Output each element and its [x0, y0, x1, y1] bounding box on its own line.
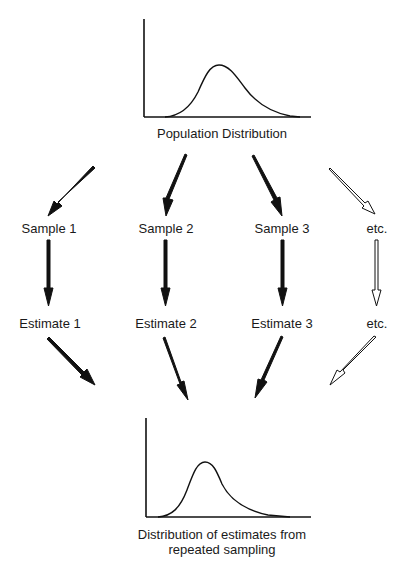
arrow-to-sample-2: [163, 154, 187, 216]
sampling-curve: [158, 462, 290, 517]
arrow-to-sample-1: [48, 166, 95, 216]
arrow-to-estimate-3: [278, 240, 287, 306]
sample-etc-label: etc.: [367, 221, 388, 236]
population-to-sample-arrows: [48, 154, 375, 216]
arrow-to-sample-etc: [329, 168, 375, 214]
population-distribution-chart: [144, 19, 311, 117]
arrow-from-estimate-1: [47, 337, 95, 385]
estimate-2-label: Estimate 2: [135, 316, 196, 331]
arrow-from-estimate-2: [163, 337, 188, 400]
estimate-etc-label: etc.: [367, 316, 388, 331]
sampling-distribution-label-line2: repeated sampling: [169, 542, 276, 557]
arrow-to-estimate-2: [161, 240, 170, 306]
arrow-to-sample-3: [252, 155, 282, 216]
sample-2-label: Sample 2: [139, 221, 194, 236]
sample-to-estimate-arrows: [44, 240, 381, 306]
sampling-distribution-chart: [146, 418, 311, 517]
sampling-distribution-label-line1: Distribution of estimates from: [138, 527, 306, 542]
estimate-3-label: Estimate 3: [251, 316, 312, 331]
arrow-from-estimate-etc: [330, 336, 376, 385]
arrow-to-estimate-etc: [372, 240, 381, 306]
population-curve: [165, 65, 300, 117]
sampling-diagram: [0, 0, 407, 572]
sample-1-label: Sample 1: [22, 221, 77, 236]
population-distribution-label: Population Distribution: [157, 126, 287, 141]
arrow-to-estimate-1: [44, 240, 53, 306]
arrow-from-estimate-3: [255, 336, 283, 398]
estimate-to-distribution-arrows: [47, 336, 376, 400]
estimate-1-label: Estimate 1: [19, 316, 80, 331]
sample-3-label: Sample 3: [255, 221, 310, 236]
